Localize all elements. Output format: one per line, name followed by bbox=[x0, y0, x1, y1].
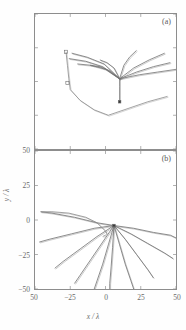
ray-path bbox=[115, 226, 176, 238]
ray-path bbox=[70, 59, 121, 79]
ray-path bbox=[66, 52, 70, 90]
panel-a-label: (a) bbox=[162, 17, 171, 26]
ray-path bbox=[114, 226, 153, 278]
open-square-2-marker bbox=[66, 81, 69, 84]
axis-ticks bbox=[35, 14, 176, 149]
ray-path bbox=[115, 226, 135, 289]
source-marker-marker bbox=[113, 224, 116, 227]
y-axis-label: y / λ bbox=[2, 175, 11, 215]
xtick-25: 25 bbox=[131, 293, 151, 302]
ray-path bbox=[56, 226, 115, 269]
xtick-0: 0 bbox=[96, 293, 116, 302]
source-marker-marker bbox=[118, 100, 121, 103]
ray-path bbox=[109, 97, 168, 116]
ray-path bbox=[70, 90, 108, 116]
ray-path bbox=[90, 65, 120, 79]
xtick-50: 50 bbox=[167, 293, 186, 302]
ray-path bbox=[71, 90, 109, 116]
figure-container: (a) (b) 50 25 0 −25 −50 50 −25 0 25 50 x… bbox=[0, 0, 186, 330]
ray-path bbox=[75, 226, 114, 284]
xtick-neg25: −25 bbox=[60, 293, 80, 302]
ray-path bbox=[74, 226, 113, 284]
ray-path bbox=[91, 66, 121, 80]
ray-path bbox=[108, 96, 167, 115]
panel-a: (a) bbox=[34, 13, 177, 150]
ray-path bbox=[42, 213, 104, 230]
ytick-0: 0 bbox=[8, 216, 30, 225]
ytick-25: 25 bbox=[8, 181, 30, 190]
ytick-50: 50 bbox=[8, 146, 30, 155]
ytick-neg25: −25 bbox=[5, 251, 30, 260]
panel-a-plot bbox=[35, 14, 176, 149]
xtick-neg50: 50 bbox=[24, 293, 44, 302]
ray-path bbox=[69, 59, 120, 79]
panel-b-label: (b) bbox=[162, 154, 171, 163]
panel-b-plot bbox=[35, 151, 176, 289]
ray-path bbox=[42, 213, 115, 227]
ray-path bbox=[110, 226, 114, 289]
x-axis-label: x / λ bbox=[0, 312, 186, 321]
panel-b: (b) bbox=[34, 150, 177, 290]
